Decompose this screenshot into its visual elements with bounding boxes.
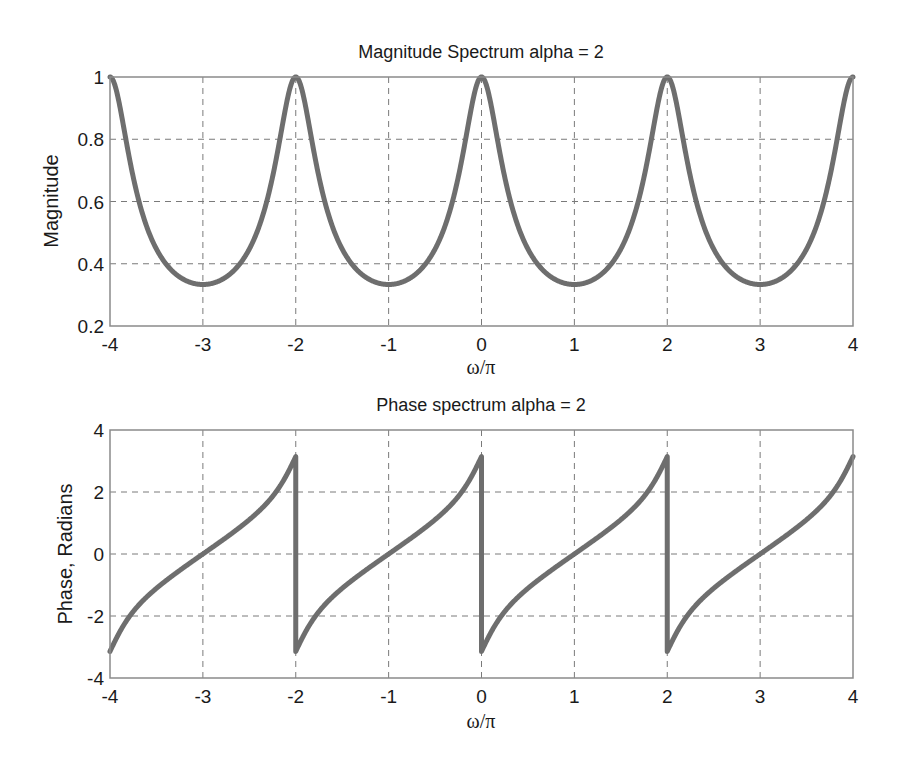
y-tick: 0 [93, 544, 104, 565]
x-tick: -3 [194, 334, 211, 355]
x-tick: 1 [569, 334, 580, 355]
x-tick: -1 [380, 334, 397, 355]
x-tick: 4 [848, 686, 859, 707]
y-tick: 0.8 [78, 129, 104, 150]
y-tick: 0.6 [78, 192, 104, 213]
x-tick: 2 [662, 686, 673, 707]
phase-x-ticks: -4 -3 -2 -1 0 1 2 3 4 [102, 686, 859, 707]
x-tick: 4 [848, 334, 859, 355]
y-tick: 0.4 [78, 254, 105, 275]
y-tick: 1 [93, 67, 104, 88]
phase-x-label: ω/π [467, 710, 496, 732]
magnitude-axes: Magnitude Spectrum alpha = 2 -4 -3 -2 -1… [40, 42, 859, 378]
y-tick: -4 [87, 668, 104, 689]
phase-y-ticks: -4 -2 0 2 4 [87, 420, 104, 689]
x-tick: 1 [569, 686, 580, 707]
magnitude-y-ticks: 0.2 0.4 0.6 0.8 1 [78, 67, 105, 337]
x-tick: -2 [287, 334, 304, 355]
x-tick: 3 [755, 334, 766, 355]
x-tick: 0 [476, 686, 487, 707]
y-tick: -2 [87, 606, 104, 627]
x-tick: -4 [102, 334, 119, 355]
y-tick: 4 [93, 420, 104, 441]
figure: Magnitude Spectrum alpha = 2 -4 -3 -2 -1… [0, 0, 906, 775]
x-tick: 2 [662, 334, 673, 355]
x-tick: 0 [476, 334, 487, 355]
magnitude-title: Magnitude Spectrum alpha = 2 [358, 42, 604, 62]
y-tick: 0.2 [78, 316, 104, 337]
magnitude-x-label: ω/π [467, 356, 496, 378]
magnitude-x-ticks: -4 -3 -2 -1 0 1 2 3 4 [102, 334, 859, 355]
x-tick: -3 [194, 686, 211, 707]
x-tick: 3 [755, 686, 766, 707]
magnitude-grid [110, 77, 853, 326]
phase-y-label: Phase, Radians [54, 483, 76, 624]
x-tick: -2 [287, 686, 304, 707]
magnitude-y-label: Magnitude [40, 154, 62, 247]
phase-axes: Phase spectrum alpha = 2 -4 -3 -2 -1 0 1… [54, 395, 859, 732]
x-tick: -4 [102, 686, 119, 707]
x-tick: -1 [380, 686, 397, 707]
phase-title: Phase spectrum alpha = 2 [376, 395, 586, 415]
y-tick: 2 [93, 482, 104, 503]
